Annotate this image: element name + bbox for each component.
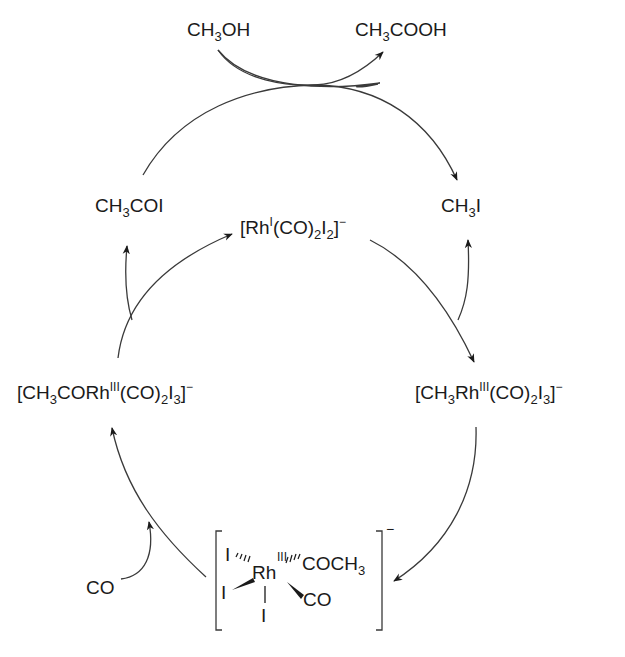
methyl-iodide-label: CH3I (441, 196, 481, 215)
wedge-bond-co (287, 582, 304, 599)
arrow-intermediate-to-acyl (112, 428, 206, 577)
formula-supscript: III (479, 380, 489, 394)
left-bracket (216, 531, 222, 630)
rhodium-catalyst-label: [RhI(CO)2I2]− (240, 218, 346, 237)
formula-text: (CO) (489, 382, 530, 403)
formula-text: OH (222, 19, 251, 40)
intermediate-oxidation-state: III (277, 551, 287, 563)
formula-subscript: 2 (530, 392, 537, 407)
arrow-acyl-to-catalyst (118, 234, 232, 358)
acyl-rhodium-complex-label: [CH3CORhIII(CO)2I3]− (17, 383, 193, 402)
formula-text: CORh (57, 382, 110, 403)
formula-text: I (476, 195, 481, 216)
formula-supscript: − (555, 380, 562, 394)
formula-subscript: 3 (382, 29, 389, 44)
formula-subscript: 3 (358, 563, 365, 578)
formula-subscript: 2 (327, 227, 334, 242)
formula-text: CH (355, 19, 382, 40)
arrow-catalyst-to-methyl-complex (370, 240, 474, 362)
formula-supscript: III (110, 380, 120, 394)
formula-subscript: 3 (50, 392, 57, 407)
intermediate-acetyl-ligand: COCH3 (302, 554, 365, 573)
arrow-ch3i-branch (458, 240, 469, 320)
intermediate-left-iodide: I (221, 583, 226, 602)
arrow-branch-to-ch3coi (126, 246, 132, 320)
formula-subscript: 3 (448, 392, 455, 407)
intermediate-co-ligand: CO (303, 590, 332, 609)
right-bracket (376, 531, 382, 630)
formula-subscript: 3 (468, 205, 475, 220)
arrow-methanol-to-acetic-acid (218, 50, 380, 87)
formula-subscript: 3 (173, 392, 180, 407)
rh-intermediate-structure (216, 531, 382, 630)
formula-text: COOH (390, 19, 447, 40)
formula-text: COI (130, 195, 164, 216)
formula-text: (CO) (273, 217, 314, 238)
intermediate-bottom-iodide: I (261, 606, 266, 625)
arrow-methanol-curve (218, 50, 383, 85)
catalytic-cycle-diagram: CH3OH CH3COOH CH3COI CH3I [RhI(CO)2I2]− … (0, 0, 625, 657)
arrow-co-branch (121, 522, 151, 579)
intermediate-charge: − (386, 522, 394, 536)
intermediate-top-left-iodide: I (225, 545, 230, 564)
formula-text: [CH (17, 382, 50, 403)
formula-subscript: 3 (122, 205, 129, 220)
formula-text: Rh (455, 382, 479, 403)
formula-subscript: 3 (214, 29, 221, 44)
methyl-rhodium-complex-label: [CH3RhIII(CO)2I3]− (415, 383, 562, 402)
formula-text: CH (441, 195, 468, 216)
formula-supscript: − (339, 215, 346, 229)
carbon-monoxide-label: CO (86, 578, 115, 597)
formula-text: [CH (415, 382, 448, 403)
arrow-outer-arc (143, 85, 457, 180)
formula-supscript: − (186, 380, 193, 394)
arrow-methyl-to-intermediate (394, 427, 476, 581)
formula-text: COCH (302, 553, 358, 574)
acetic-acid-label: CH3COOH (355, 20, 447, 39)
formula-text: [Rh (240, 217, 270, 238)
methanol-label: CH3OH (187, 20, 250, 39)
formula-text: (CO) (120, 382, 161, 403)
intermediate-rhodium: Rh (252, 563, 276, 582)
acetyl-iodide-label: CH3COI (95, 196, 163, 215)
formula-text: CH (187, 19, 214, 40)
formula-text: CH (95, 195, 122, 216)
